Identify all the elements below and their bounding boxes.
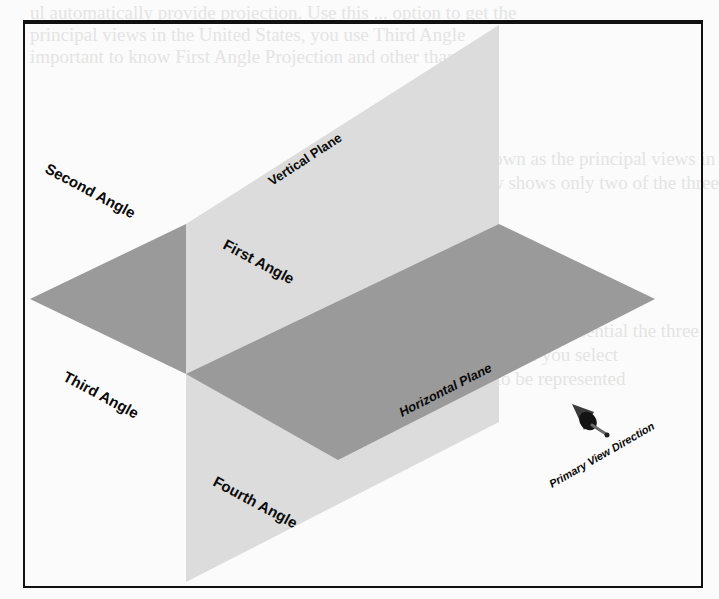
- figure-frame: [23, 20, 703, 588]
